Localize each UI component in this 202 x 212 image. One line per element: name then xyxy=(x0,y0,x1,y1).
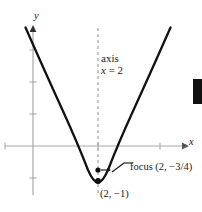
focus-leader-line xyxy=(112,163,124,172)
axis-label-line2: x = 2 xyxy=(101,65,123,77)
vertex-point xyxy=(95,178,101,184)
parabola-curve xyxy=(26,28,171,183)
axis-label-equation: = 2 xyxy=(106,64,123,76)
y-axis-label: y xyxy=(34,10,39,21)
axis-of-symmetry-label: axis x = 2 xyxy=(101,53,123,77)
y-axis-arrowhead xyxy=(30,25,37,32)
parabola-plot xyxy=(0,0,202,212)
focus-label: focus (2, −3/4) xyxy=(130,161,192,172)
parabola-figure: y x axis x = 2 focus (2, −3/4) (2, −1) xyxy=(0,0,202,212)
scan-artifact-block xyxy=(193,79,202,104)
x-axis-label: x xyxy=(189,136,194,147)
vertex-label: (2, −1) xyxy=(100,188,129,199)
axis-label-line1: axis xyxy=(101,52,119,64)
x-axis-arrowhead xyxy=(182,142,189,149)
focus-point xyxy=(95,167,100,172)
